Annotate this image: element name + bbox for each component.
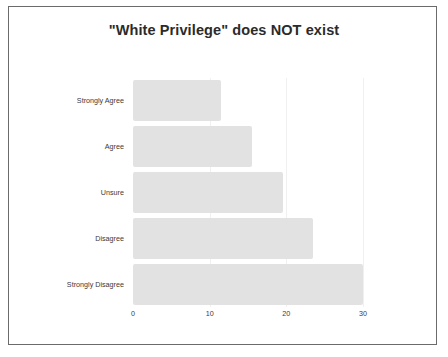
bar-row: Agree — [133, 124, 363, 170]
x-tick-label: 10 — [206, 309, 214, 318]
bar — [133, 80, 221, 121]
x-axis-tick-labels: 0102030 — [133, 309, 363, 323]
chart-title: "White Privilege" does NOT exist — [0, 22, 448, 38]
category-label: Strongly Agree — [77, 96, 124, 105]
bar — [133, 126, 252, 167]
bar-row: Unsure — [133, 170, 363, 216]
bar-series: Strongly AgreeAgreeUnsureDisagreeStrongl… — [133, 78, 363, 307]
category-label: Unsure — [101, 188, 124, 197]
bar — [133, 264, 363, 305]
bar — [133, 218, 313, 259]
gridline — [363, 78, 364, 307]
bar-row: Disagree — [133, 215, 363, 261]
bar-row: Strongly Agree — [133, 78, 363, 124]
category-label: Agree — [105, 142, 124, 151]
x-tick-label: 30 — [359, 309, 367, 318]
chart-screenshot: "White Privilege" does NOT exist Strongl… — [0, 0, 448, 357]
category-label: Strongly Disagree — [67, 280, 124, 289]
category-label: Disagree — [95, 234, 124, 243]
x-tick-label: 0 — [131, 309, 135, 318]
bar — [133, 172, 283, 213]
plot-area: Strongly AgreeAgreeUnsureDisagreeStrongl… — [133, 78, 363, 307]
x-tick-label: 20 — [282, 309, 290, 318]
bar-row: Strongly Disagree — [133, 261, 363, 307]
